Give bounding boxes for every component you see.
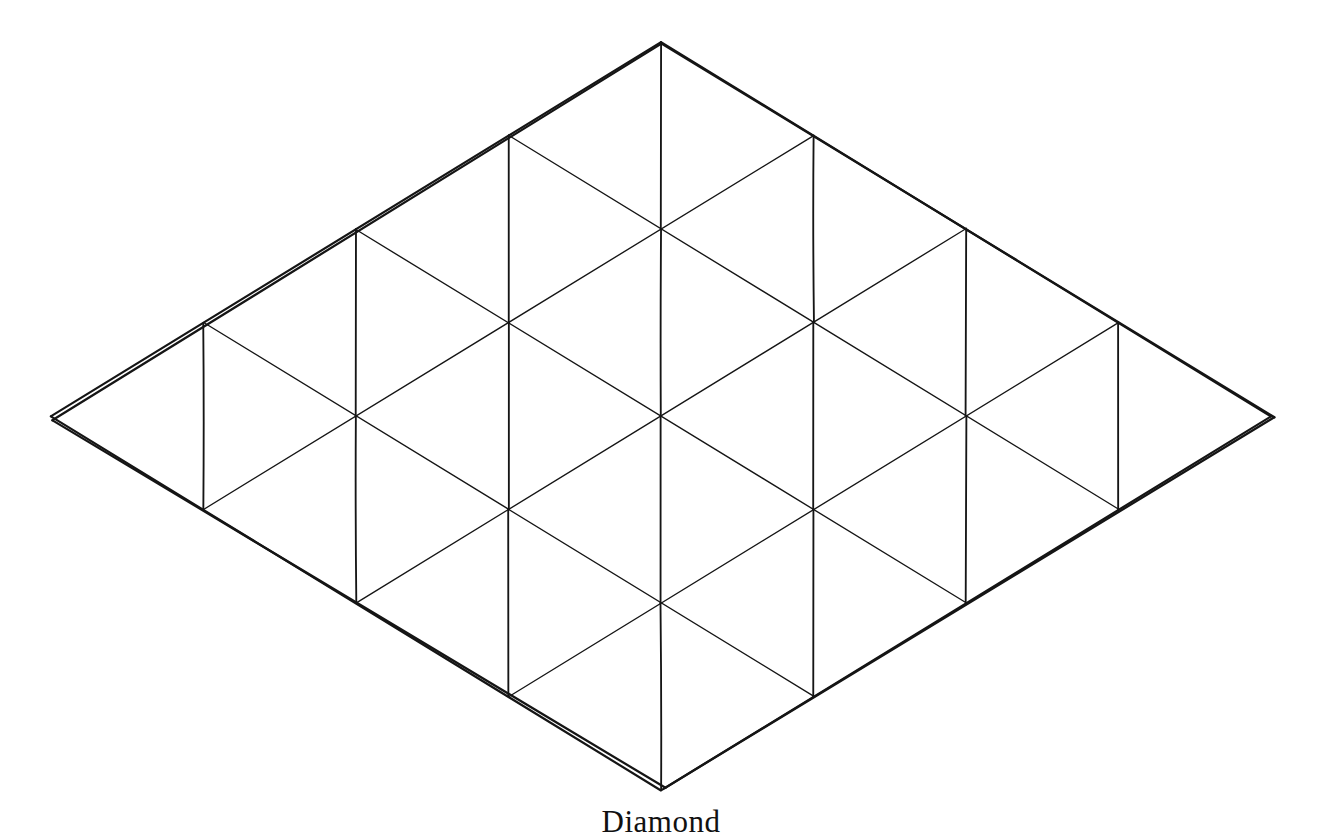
cell-diagonal-line-group: [203, 42, 1118, 790]
rhombus-outline-edge: [665, 417, 1275, 788]
rhombus-outline-group: [52, 43, 1274, 788]
cell-diagonal: [966, 416, 967, 603]
rhombus-outline-edge: [53, 420, 666, 787]
cell-diagonal: [813, 135, 814, 322]
figure-caption: Diamond: [0, 806, 1322, 832]
diamond-lattice-figure: [0, 0, 1322, 832]
cell-diagonal: [661, 603, 662, 790]
rhombus-outline-edge: [661, 43, 1274, 417]
figure-root: Diamond: [0, 0, 1322, 832]
cell-diagonal: [966, 229, 967, 417]
cell-diagonal: [356, 416, 357, 603]
